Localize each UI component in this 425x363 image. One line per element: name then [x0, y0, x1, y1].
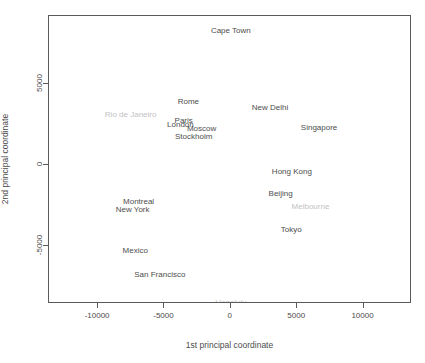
point-label: Rio de Janeiro: [105, 109, 157, 118]
point-label: Melbourne: [292, 202, 330, 211]
x-tick-mark: [230, 303, 231, 308]
y-tick-label: 0: [35, 162, 44, 166]
x-tick-label: 0: [228, 311, 232, 320]
plot-area: Cape TownRomeNew DelhiRio de JaneiroPari…: [48, 15, 411, 303]
y-tick-mark: [43, 164, 48, 165]
y-axis-title: 2nd principal coordinate: [0, 114, 10, 204]
x-tick-label: -10000: [85, 311, 110, 320]
y-tick-mark: [43, 245, 48, 246]
x-tick-label: -5000: [153, 311, 173, 320]
x-tick-mark: [363, 303, 364, 308]
point-label: Honolulu: [215, 297, 247, 303]
point-label: Beijing: [269, 188, 293, 197]
y-tick-mark: [43, 83, 48, 84]
point-label: Rome: [178, 96, 199, 105]
x-tick-label: 10000: [351, 311, 373, 320]
x-tick-mark: [296, 303, 297, 308]
x-tick-mark: [97, 303, 98, 308]
y-tick-label: -5000: [35, 235, 44, 255]
y-tick-label: 5000: [35, 74, 44, 92]
x-tick-mark: [163, 303, 164, 308]
point-label: Stockholm: [175, 131, 212, 140]
x-tick-label: 5000: [287, 311, 305, 320]
x-axis-title: 1st principal coordinate: [48, 340, 411, 350]
point-label: New York: [116, 204, 150, 213]
point-label: Tokyo: [281, 225, 302, 234]
point-label: Singapore: [301, 122, 337, 131]
point-label: Cape Town: [211, 25, 251, 34]
point-label: San Francisco: [134, 269, 185, 278]
mds-scatter-plot-figure: Cape TownRomeNew DelhiRio de JaneiroPari…: [0, 0, 425, 363]
point-label: Mexico: [123, 246, 148, 255]
point-label: New Delhi: [252, 103, 288, 112]
point-label: Hong Kong: [272, 167, 312, 176]
